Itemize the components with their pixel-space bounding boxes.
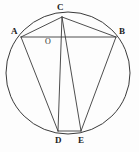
figure-canvas <box>0 0 139 152</box>
segment-ad <box>21 37 58 131</box>
segment-cd <box>58 17 62 131</box>
point-label-b: B <box>119 27 125 36</box>
point-label-o: O <box>45 38 51 46</box>
point-label-e: E <box>78 136 84 145</box>
geometry-figure: A B C D E O <box>0 0 139 152</box>
segment-layer <box>21 17 116 131</box>
segment-cb <box>62 17 116 37</box>
point-label-a: A <box>11 27 18 36</box>
segment-ce <box>62 17 81 131</box>
circumscribed-circle <box>6 12 130 134</box>
point-label-c: C <box>57 3 64 12</box>
point-label-d: D <box>55 136 62 145</box>
